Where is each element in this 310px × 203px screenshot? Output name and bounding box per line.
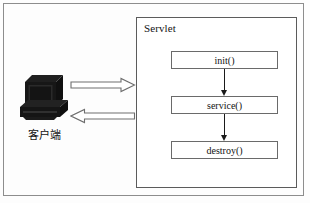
diagram-canvas: 客户端 Servlet init() service() destroy() bbox=[0, 0, 310, 203]
method-label-init: init() bbox=[215, 55, 235, 66]
connector-init-to-service bbox=[224, 69, 225, 91]
desktop-computer-icon bbox=[16, 69, 70, 123]
method-label-destroy: destroy() bbox=[206, 145, 242, 156]
method-box-init: init() bbox=[171, 51, 278, 69]
servlet-container-label: Servlet bbox=[144, 22, 176, 34]
method-box-destroy: destroy() bbox=[171, 141, 278, 159]
method-box-service: service() bbox=[171, 96, 278, 114]
connector-service-to-destroy-arrowhead-icon bbox=[221, 135, 227, 141]
request-arrow bbox=[70, 77, 136, 93]
response-arrow bbox=[70, 108, 136, 124]
connector-service-to-destroy bbox=[224, 114, 225, 136]
client-label: 客户端 bbox=[16, 126, 72, 142]
method-label-service: service() bbox=[207, 100, 242, 111]
connector-init-to-service-arrowhead-icon bbox=[221, 90, 227, 96]
